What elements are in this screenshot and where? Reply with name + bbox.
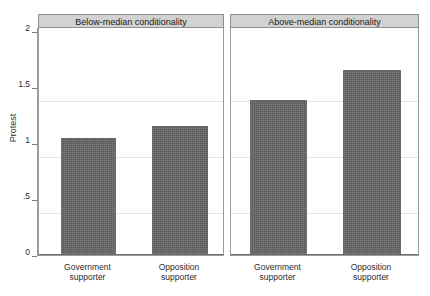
x-category-label-opposition-supporter: Opposition supporter bbox=[342, 262, 400, 282]
plot-area-below-median bbox=[38, 28, 224, 256]
y-tick-label-point5: .5 bbox=[2, 191, 30, 201]
y-tick-point5: .5 bbox=[0, 200, 36, 201]
bar-above-median-government-supporter[interactable] bbox=[250, 100, 307, 254]
x-category-line1: Opposition bbox=[151, 262, 207, 272]
x-category-line2: supporter bbox=[342, 272, 400, 282]
y-tick-mark bbox=[32, 256, 37, 257]
y-tick-mark bbox=[32, 88, 37, 89]
y-tick-mark bbox=[32, 32, 37, 33]
y-tick-label-1: 1 bbox=[2, 135, 30, 145]
panel-title-below-median: Below-median conditionality bbox=[38, 14, 224, 28]
x-category-line1: Government bbox=[249, 262, 306, 272]
y-tick-2: 2 bbox=[0, 32, 36, 33]
y-tick-1: 1 bbox=[0, 144, 36, 145]
bar-below-median-opposition-supporter[interactable] bbox=[152, 126, 208, 254]
x-category-label-opposition-supporter: Opposition supporter bbox=[151, 262, 207, 282]
y-tick-label-1point5: 1.5 bbox=[2, 79, 30, 89]
y-tick-mark bbox=[32, 144, 37, 145]
bar-below-median-government-supporter[interactable] bbox=[61, 138, 116, 254]
x-category-line2: supporter bbox=[60, 272, 115, 282]
x-axis-baseline bbox=[231, 254, 418, 255]
x-category-line2: supporter bbox=[249, 272, 306, 282]
x-category-label-government-supporter: Government supporter bbox=[60, 262, 115, 282]
y-axis-title: Protest bbox=[8, 88, 18, 168]
x-category-line2: supporter bbox=[151, 272, 207, 282]
y-tick-0: 0 bbox=[0, 256, 36, 257]
plot-area-above-median bbox=[230, 28, 419, 256]
y-tick-label-0: 0 bbox=[2, 247, 30, 257]
y-tick-1point5: 1.5 bbox=[0, 88, 36, 89]
y-tick-mark bbox=[32, 200, 37, 201]
x-axis-baseline bbox=[39, 254, 223, 255]
y-tick-label-2: 2 bbox=[2, 23, 30, 33]
gridline-1point5 bbox=[39, 101, 223, 102]
bar-chart-figure: Protest 2 1.5 1 .5 0 Below-median condit… bbox=[0, 0, 430, 296]
panel-title-above-median: Above-median conditionality bbox=[230, 14, 419, 28]
bar-above-median-opposition-supporter[interactable] bbox=[343, 70, 401, 254]
x-category-line1: Government bbox=[60, 262, 115, 272]
x-category-label-government-supporter: Government supporter bbox=[249, 262, 306, 282]
x-category-line1: Opposition bbox=[342, 262, 400, 272]
